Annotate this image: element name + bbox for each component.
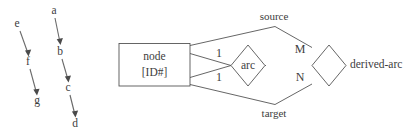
connector-target — [190, 84, 312, 105]
graph-node-c: c — [65, 81, 70, 93]
connector-arc-target — [190, 66, 231, 78]
cardinality-arc-source: 1 — [216, 46, 222, 60]
edge-c-d — [70, 95, 78, 118]
role-source-label: source — [260, 10, 289, 22]
graph-node-d: d — [72, 117, 78, 129]
graph-chain-middle: a b c d — [51, 4, 78, 129]
connector-arc-source — [190, 54, 231, 66]
cardinality-derived-m: M — [295, 42, 306, 56]
diagram-svg: e f g a b c d — [0, 0, 413, 133]
graph-node-f: f — [26, 55, 30, 67]
entity-node-label-line1: node — [143, 50, 165, 62]
graph-node-b: b — [57, 45, 63, 57]
edge-a-b — [55, 18, 63, 45]
edge-b-c — [62, 59, 71, 83]
diagram-canvas: e f g a b c d — [0, 0, 413, 133]
edge-f-g — [30, 69, 40, 96]
relationship-derived-diamond — [312, 45, 346, 86]
er-diagram: node [ID#] arc derived-arc source target… — [119, 10, 402, 119]
edge-e-f — [20, 31, 31, 57]
relationship-arc-label: arc — [241, 59, 255, 71]
graph-node-e: e — [14, 17, 19, 29]
graph-chain-left: e f g — [14, 17, 40, 107]
graph-node-g: g — [34, 94, 40, 107]
role-target-label: target — [262, 107, 287, 119]
entity-derived-arc-label: derived-arc — [350, 58, 402, 70]
entity-node-label-line2: [ID#] — [142, 66, 168, 78]
cardinality-derived-n: N — [296, 70, 305, 84]
cardinality-arc-target: 1 — [216, 70, 222, 84]
graph-node-a: a — [51, 4, 56, 16]
